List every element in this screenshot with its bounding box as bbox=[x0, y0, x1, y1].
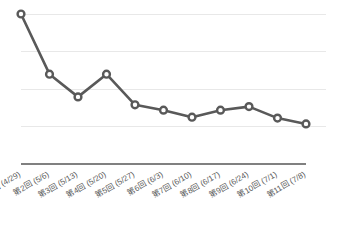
data-point-marker bbox=[46, 71, 53, 78]
x-axis-tick-labels: 第1回 (4/29)第2回 (5/6)第3回 (5/13)第4回 (5/20)第… bbox=[0, 169, 307, 200]
data-point-marker bbox=[246, 103, 253, 110]
data-point-marker bbox=[103, 71, 110, 78]
data-point-marker bbox=[303, 121, 310, 128]
gridlines bbox=[21, 15, 326, 127]
data-point-marker bbox=[189, 114, 196, 121]
data-point-marker bbox=[274, 115, 281, 122]
data-point-marker bbox=[132, 101, 139, 108]
data-point-markers bbox=[18, 11, 310, 128]
data-point-marker bbox=[75, 93, 82, 100]
line-chart: 第1回 (4/29)第2回 (5/6)第3回 (5/13)第4回 (5/20)第… bbox=[0, 0, 346, 227]
data-point-marker bbox=[18, 11, 25, 18]
data-point-marker bbox=[160, 107, 167, 114]
chart-canvas: 第1回 (4/29)第2回 (5/6)第3回 (5/13)第4回 (5/20)第… bbox=[0, 0, 346, 227]
data-point-marker bbox=[217, 107, 224, 114]
